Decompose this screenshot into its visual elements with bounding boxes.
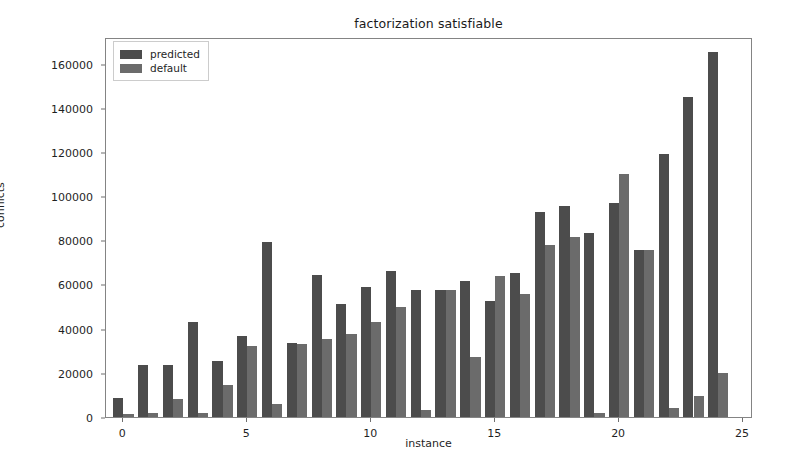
default-swatch-icon	[120, 64, 142, 73]
bar-predicted-16	[510, 273, 520, 417]
bar-default-6	[272, 404, 282, 417]
bar-predicted-11	[386, 271, 396, 417]
chart-title: factorization satisfiable	[105, 16, 752, 31]
x-tick-mark	[122, 418, 123, 422]
legend: predicted default	[113, 41, 209, 81]
bar-predicted-17	[535, 212, 545, 417]
bar-predicted-2	[163, 365, 173, 417]
bar-default-20	[619, 174, 629, 417]
legend-entry: predicted	[120, 47, 200, 61]
bar-predicted-14	[460, 281, 470, 417]
x-tick-mark	[618, 418, 619, 422]
y-tick-label: 20000	[58, 367, 93, 380]
y-tick-label: 160000	[51, 58, 93, 71]
x-tick-mark	[742, 418, 743, 422]
bar-predicted-12	[411, 290, 421, 417]
bar-predicted-18	[559, 206, 569, 417]
bar-predicted-13	[435, 290, 445, 417]
bar-predicted-10	[361, 287, 371, 417]
predicted-swatch-icon	[120, 50, 142, 59]
bar-default-3	[198, 413, 208, 417]
bar-default-22	[669, 408, 679, 417]
bar-predicted-3	[188, 322, 198, 417]
x-tick-mark	[494, 418, 495, 422]
bar-predicted-4	[212, 361, 222, 417]
y-tick-label: 0	[86, 412, 93, 425]
bar-predicted-8	[312, 275, 322, 418]
bar-default-10	[371, 322, 381, 417]
x-axis-title: instance	[105, 437, 752, 450]
bar-default-16	[520, 294, 530, 417]
bar-default-2	[173, 399, 183, 417]
bar-default-21	[644, 250, 654, 417]
y-tick-label: 140000	[51, 102, 93, 115]
bar-predicted-21	[634, 250, 644, 417]
y-tick-label: 60000	[58, 279, 93, 292]
bar-default-11	[396, 307, 406, 417]
bar-predicted-19	[584, 233, 594, 417]
y-tick-label: 100000	[51, 191, 93, 204]
bar-default-13	[446, 290, 456, 417]
bar-default-14	[470, 357, 480, 417]
bar-predicted-7	[287, 343, 297, 417]
legend-label-default: default	[150, 62, 187, 74]
bar-default-5	[247, 346, 257, 417]
bar-default-12	[421, 410, 431, 417]
bar-predicted-24	[708, 52, 718, 417]
legend-entry: default	[120, 61, 200, 75]
bar-default-17	[545, 245, 555, 417]
bar-predicted-6	[262, 242, 272, 417]
bar-default-8	[322, 339, 332, 417]
bar-predicted-15	[485, 301, 495, 417]
bars-layer	[106, 39, 751, 417]
figure-canvas: factorization satisfiable conflicts 0200…	[0, 0, 792, 471]
x-tick-mark	[246, 418, 247, 422]
bar-predicted-20	[609, 203, 619, 417]
bar-default-0	[123, 414, 133, 417]
bar-predicted-22	[659, 154, 669, 417]
legend-label-predicted: predicted	[150, 48, 200, 60]
bar-default-1	[148, 413, 158, 417]
y-tick-label: 80000	[58, 235, 93, 248]
plot-area	[105, 38, 752, 418]
bar-predicted-23	[683, 97, 693, 417]
bar-default-18	[570, 237, 580, 417]
bar-predicted-9	[336, 304, 346, 417]
bar-default-9	[346, 334, 356, 417]
bar-predicted-1	[138, 365, 148, 417]
bar-default-15	[495, 276, 505, 417]
bar-default-23	[694, 396, 704, 417]
bar-default-24	[718, 373, 728, 417]
y-tick-label: 40000	[58, 323, 93, 336]
y-axis: 0200004000060000800001000001200001400001…	[0, 38, 105, 418]
bar-default-4	[223, 385, 233, 417]
bar-default-19	[594, 413, 604, 417]
bar-predicted-0	[113, 398, 123, 417]
x-tick-mark	[370, 418, 371, 422]
bar-predicted-5	[237, 336, 247, 417]
y-tick-label: 120000	[51, 146, 93, 159]
bar-default-7	[297, 344, 307, 417]
